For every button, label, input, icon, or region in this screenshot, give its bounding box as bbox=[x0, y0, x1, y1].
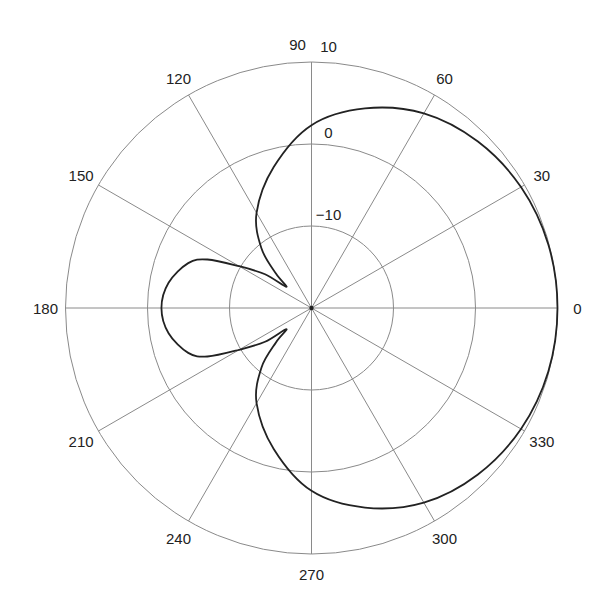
angle-label-150: 150 bbox=[69, 167, 94, 184]
angle-label-30: 30 bbox=[534, 167, 551, 184]
spoke-330 bbox=[312, 308, 525, 431]
angle-label-120: 120 bbox=[166, 69, 191, 86]
angle-label-90: 90 bbox=[289, 36, 306, 53]
angle-label-0: 0 bbox=[573, 300, 581, 317]
spoke-150 bbox=[98, 185, 311, 308]
angle-label-60: 60 bbox=[436, 69, 453, 86]
spoke-240 bbox=[189, 308, 312, 521]
spoke-210 bbox=[98, 308, 311, 431]
spoke-120 bbox=[189, 95, 312, 308]
radial-label-0: 0 bbox=[324, 124, 332, 141]
spoke-30 bbox=[312, 185, 525, 308]
radial-label-10: 10 bbox=[320, 38, 337, 55]
angle-label-300: 300 bbox=[432, 530, 457, 547]
angle-label-330: 330 bbox=[529, 433, 554, 450]
spoke-300 bbox=[312, 308, 435, 521]
polar-chart bbox=[0, 0, 608, 612]
angle-label-210: 210 bbox=[69, 433, 94, 450]
angle-label-180: 180 bbox=[33, 300, 58, 317]
angle-label-240: 240 bbox=[166, 530, 191, 547]
angle-label-270: 270 bbox=[299, 566, 324, 583]
center-point bbox=[309, 306, 313, 310]
radial-label--10: −10 bbox=[316, 206, 341, 223]
